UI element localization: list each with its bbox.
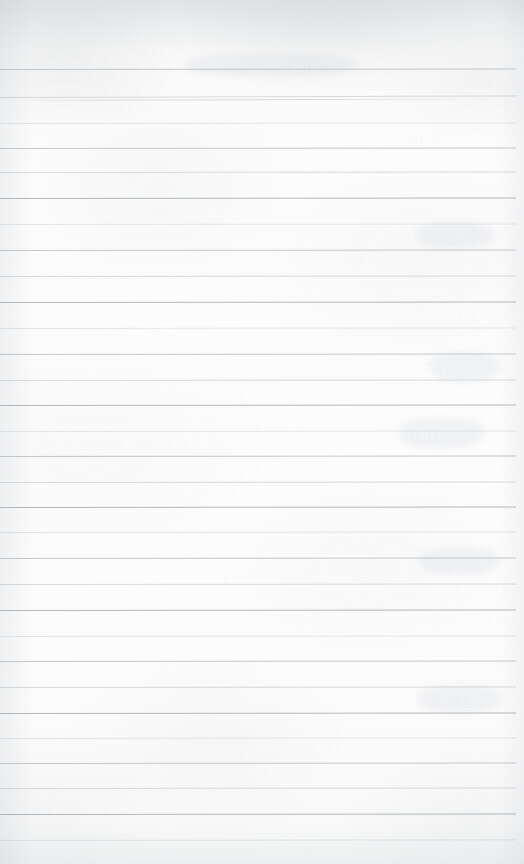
rule-line [0,788,516,789]
rule-line [0,661,516,662]
rule-line [0,224,516,225]
rule-line [0,610,516,611]
rule-line [0,302,516,303]
rule-line [0,532,516,533]
rule-line [0,69,516,70]
rule-line [0,172,516,173]
rule-line [0,687,516,688]
rule-line [0,584,516,585]
rule-line [0,380,516,381]
rule-line [0,276,516,277]
rule-line [0,405,516,406]
rule-line [0,814,516,815]
scanned-page: nanoparticles of athe structureconsidere… [0,0,524,864]
rule-line [0,198,516,199]
ruled-lines [0,0,524,864]
rule-line [0,250,516,251]
rule-line [0,507,516,508]
rule-line [0,840,516,841]
rule-line [0,636,516,637]
rule-line [0,123,516,124]
rule-line [0,431,516,432]
rule-line [0,328,516,329]
rule-line [0,763,516,764]
rule-line [0,482,516,483]
rule-line [0,456,516,457]
rule-line [0,354,516,355]
rule-line [0,713,516,714]
rule-line [0,558,516,559]
rule-line [0,96,516,98]
rule-line [0,99,516,101]
rule-line [0,738,516,739]
rule-line [0,148,516,149]
